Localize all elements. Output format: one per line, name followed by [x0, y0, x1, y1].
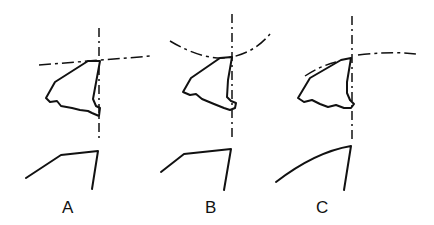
panel-c-reference-arc-left [305, 62, 336, 76]
panel-c-reference-arc-right [358, 53, 416, 55]
panel-a-label: A [62, 199, 73, 216]
diagram-drawing [0, 0, 434, 225]
panel-b [161, 14, 270, 190]
panel-c-label: C [316, 199, 328, 216]
panel-b-fragment-outline [183, 57, 236, 110]
panel-b-profile [161, 149, 231, 190]
panel-a-profile [26, 151, 98, 189]
panel-a-fragment-outline [46, 61, 100, 116]
panel-b-label: B [205, 199, 216, 216]
panel-c-profile [276, 146, 351, 190]
diagram-canvas: A B C [0, 0, 434, 225]
panel-b-reference-arc [170, 34, 270, 58]
panel-a [26, 28, 151, 189]
panel-c [276, 16, 416, 190]
